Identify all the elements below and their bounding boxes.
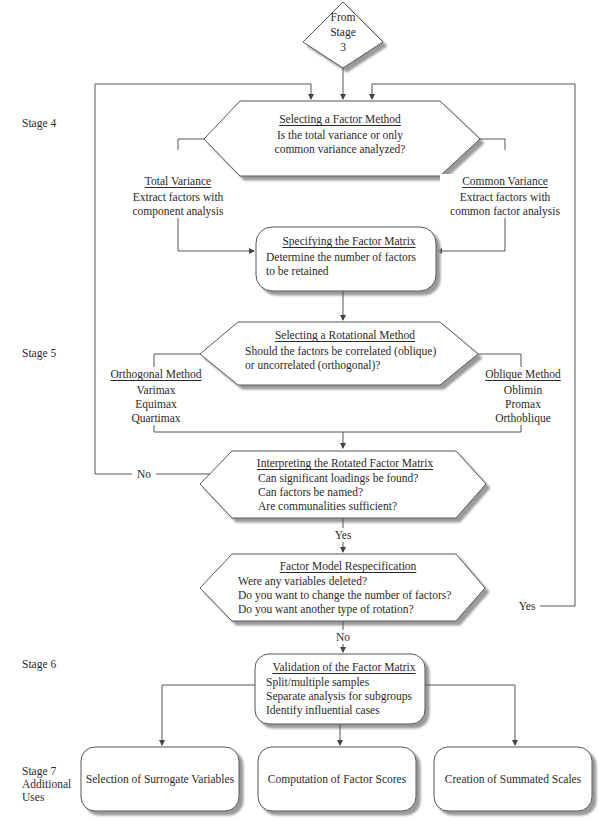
validation-node: Validation of the Factor Matrix Split/mu… — [266, 660, 422, 717]
factor-method-node: Selecting a Factor Method Is the total v… — [230, 112, 450, 156]
common-variance-node: Common Variance Extract factors with com… — [440, 174, 570, 218]
edge-label-interpreting-no: No — [132, 467, 156, 481]
orthogonal-method-node: Orthogonal Method Varimax Equimax Quarti… — [104, 367, 208, 425]
stage-7-label: Stage 7 Additional Uses — [22, 765, 71, 804]
stage-5-label: Stage 5 — [22, 347, 56, 360]
stage-6-label: Stage 6 — [22, 658, 56, 671]
respecification-node: Factor Model Respecification Were any va… — [238, 559, 458, 616]
oblique-method-node: Oblique Method Oblimin Promax Orthobliqu… — [480, 367, 566, 425]
edge-label-interpreting-yes: Yes — [331, 528, 355, 542]
use-summated-scales: Creation of Summated Scales — [434, 772, 592, 786]
edge-label-respec-no: No — [333, 630, 353, 644]
edge-label-respec-yes: Yes — [514, 599, 540, 613]
total-variance-node: Total Variance Extract factors with comp… — [118, 174, 238, 218]
interpreting-node: Interpreting the Rotated Factor Matrix C… — [250, 456, 440, 513]
rotational-method-node: Selecting a Rotational Method Should the… — [245, 328, 445, 372]
use-factor-scores: Computation of Factor Scores — [258, 772, 416, 786]
stage-4-label: Stage 4 — [22, 117, 56, 130]
factor-matrix-node: Specifying the Factor Matrix Determine t… — [266, 234, 432, 278]
use-surrogate-variables: Selection of Surrogate Variables — [81, 772, 239, 786]
factor-method-title: Selecting a Factor Method — [230, 112, 450, 126]
start-node: From Stage 3 — [318, 10, 368, 55]
